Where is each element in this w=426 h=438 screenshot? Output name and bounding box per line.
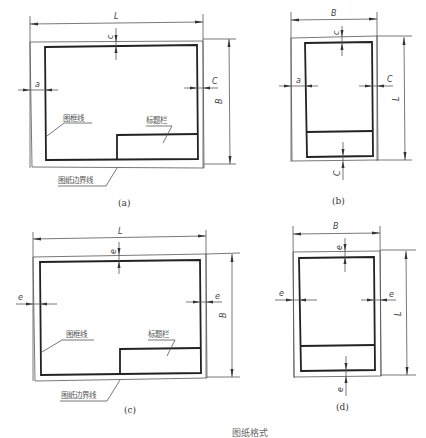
- label-C-bottom: C: [333, 170, 342, 176]
- title-block-divider: [306, 131, 373, 132]
- panel-c: L B e e e 图框线 标题栏 图纸边界线: [16, 227, 240, 415]
- title-block: [117, 134, 198, 160]
- panel-d: B L e e e e (d): [275, 222, 416, 412]
- arrow-icon: [284, 85, 291, 88]
- arrow-icon: [30, 22, 38, 25]
- arrow-icon: [405, 251, 408, 259]
- dimension-line-L: [33, 236, 206, 239]
- drawing-sheet-formats-figure: L B c a C 图框线: [0, 0, 426, 438]
- arrow-icon: [342, 161, 345, 168]
- label-e-left: e: [18, 293, 23, 302]
- label-e-top: e: [109, 249, 118, 254]
- label-L: L: [118, 227, 122, 236]
- label-frame-line: 图框线: [63, 113, 85, 123]
- label-c-top: c: [332, 30, 341, 35]
- dimension-line-B: [291, 19, 377, 20]
- label-e-right: e: [389, 290, 394, 299]
- panel-b: B L c a C C (b): [279, 9, 412, 206]
- frame-line: [305, 42, 373, 157]
- arrow-icon: [293, 233, 301, 236]
- label-B: B: [333, 222, 339, 231]
- frame-line: [45, 45, 198, 160]
- label-L: L: [394, 312, 403, 316]
- label-e-left: e: [279, 289, 284, 298]
- arrow-icon: [203, 87, 210, 90]
- dimension-line-L: [406, 251, 407, 375]
- arrow-icon: [115, 46, 118, 53]
- label-a: a: [35, 80, 40, 89]
- label-paper-boundary: 图纸边界线: [58, 175, 94, 185]
- arrow-icon: [342, 149, 345, 156]
- label-B: B: [219, 313, 228, 319]
- caption-c: (c): [124, 405, 136, 415]
- label-e-top: e: [335, 245, 344, 250]
- arrow-icon: [372, 232, 380, 235]
- extension-line-top: [206, 253, 240, 254]
- label-title-block: 标题栏: [146, 115, 168, 125]
- figure-caption: 图纸格式: [232, 427, 268, 438]
- leader-line: [107, 380, 120, 401]
- label-e-bottom: e: [336, 387, 345, 392]
- arrow-icon: [404, 152, 407, 160]
- arrow-icon: [231, 254, 234, 262]
- label-title-block: 标题栏: [148, 329, 170, 339]
- arrow-icon: [33, 237, 41, 240]
- arrow-icon: [229, 156, 232, 164]
- arrow-icon: [291, 19, 299, 22]
- arrow-icon: [286, 299, 293, 302]
- arrow-icon: [377, 85, 384, 88]
- arrow-icon: [23, 89, 30, 92]
- arrow-icon: [118, 261, 121, 268]
- label-C-right: C: [212, 77, 218, 86]
- arrow-icon: [403, 37, 406, 45]
- arrow-icon: [380, 299, 387, 302]
- arrow-icon: [193, 301, 200, 304]
- panel-a: L B c a C 图框线: [18, 12, 236, 208]
- dimension-line-B: [293, 233, 380, 234]
- leader-line: [106, 168, 117, 186]
- arrow-icon: [345, 376, 348, 383]
- arrow-icon: [231, 369, 234, 377]
- arrow-icon: [345, 363, 348, 370]
- arrow-icon: [367, 299, 374, 302]
- label-L: L: [114, 12, 118, 21]
- label-a: a: [296, 76, 301, 85]
- caption-a: (a): [118, 198, 130, 208]
- caption-b: (b): [332, 196, 345, 206]
- label-c-top: c: [106, 34, 115, 39]
- arrow-icon: [206, 301, 213, 304]
- label-e-right: e: [215, 292, 220, 301]
- label-B: B: [331, 9, 337, 18]
- arrow-icon: [406, 367, 409, 375]
- paper-boundary: [291, 36, 378, 161]
- caption-d: (d): [336, 402, 349, 412]
- title-block: [120, 348, 201, 375]
- label-C-right: C: [387, 75, 393, 84]
- frame-line: [299, 257, 375, 371]
- leader-line: [42, 340, 62, 352]
- dimension-line-L: [30, 22, 203, 24]
- leader-line: [47, 123, 64, 136]
- label-L: L: [392, 97, 401, 101]
- arrow-icon: [198, 235, 206, 238]
- arrow-icon: [26, 303, 33, 306]
- paper-boundary: [293, 251, 381, 377]
- label-frame-line: 图框线: [66, 329, 88, 339]
- arrow-icon: [369, 18, 377, 21]
- label-paper-boundary: 图纸边界线: [61, 390, 97, 400]
- arrow-icon: [341, 43, 344, 50]
- arrow-icon: [195, 21, 203, 24]
- label-B: B: [215, 99, 224, 105]
- dimension-line-L: [404, 37, 405, 160]
- arrow-icon: [228, 39, 231, 47]
- arrow-icon: [190, 87, 197, 90]
- arrow-icon: [365, 85, 372, 88]
- title-block-divider: [300, 345, 375, 346]
- dimension-line-B: [229, 39, 230, 164]
